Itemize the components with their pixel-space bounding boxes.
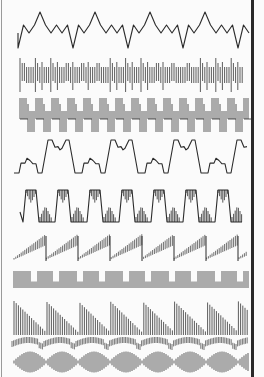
trace-2 (20, 58, 242, 92)
trace-1 (18, 12, 249, 48)
trace-10 (14, 352, 248, 373)
trace-3 (20, 98, 252, 132)
trace-7 (14, 271, 248, 288)
trace-8 (14, 301, 247, 335)
waveform-traces (0, 0, 264, 377)
trace-5 (20, 190, 242, 222)
waveform-figure (0, 0, 264, 377)
trace-6 (14, 234, 246, 261)
trace-4 (14, 140, 247, 173)
trace-9 (12, 337, 247, 350)
